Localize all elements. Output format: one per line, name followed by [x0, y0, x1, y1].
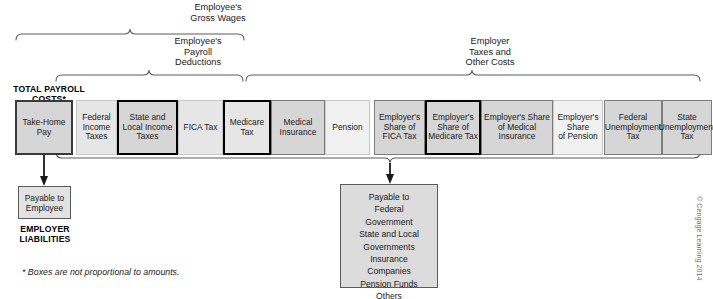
payroll-component-box: Take-Home Pay [15, 100, 73, 155]
payroll-component-box: Federal Income Taxes [76, 100, 117, 155]
payroll-component-box: Pension [325, 100, 370, 155]
brace-employer-taxes [246, 70, 700, 81]
arrow-to-payable-employee [40, 155, 48, 186]
payroll-costs-diagram: Employee's Gross Wages Employee's Payrol… [0, 0, 713, 299]
copyright-text: © Cengage Learning 2014 [695, 196, 704, 280]
payroll-component-box: State and Local Income Taxes [117, 100, 178, 155]
group-label-employer-taxes: Employer Taxes and Other Costs [400, 36, 580, 68]
payroll-components-row: Take-Home PayFederal Income TaxesState a… [0, 100, 713, 155]
brace-payroll-deductions [56, 70, 243, 81]
footnote-text: * Boxes are not proportional to amounts. [22, 267, 179, 277]
payable-to-government-box: Payable to Federal Government State and … [340, 184, 438, 288]
employer-liabilities-label: EMPLOYER LIABILITIES [12, 224, 78, 244]
payroll-component-box: Medical Insurance [271, 100, 325, 155]
payroll-component-box: State Unemployment Tax [662, 100, 712, 155]
payroll-component-box: Medicare Tax [223, 100, 271, 155]
payroll-component-box: Employer's Share of Medicare Tax [425, 100, 481, 155]
payroll-component-box: Federal Unemployment Tax [604, 100, 662, 155]
payroll-component-box: Employer's Share of Medical Insurance [481, 100, 553, 155]
payroll-component-box: Employer's Share of FICA Tax [374, 100, 425, 155]
payroll-component-box: Employer's Share of Pension [553, 100, 603, 155]
payroll-component-box: FICA Tax [178, 100, 223, 155]
group-label-gross-wages: Employee's Gross Wages [118, 2, 318, 23]
group-label-payroll-deductions: Employee's Payroll Deductions [108, 36, 288, 68]
payable-to-employee-box: Payable to Employee [18, 186, 71, 219]
arrow-to-payable-government [386, 163, 394, 184]
